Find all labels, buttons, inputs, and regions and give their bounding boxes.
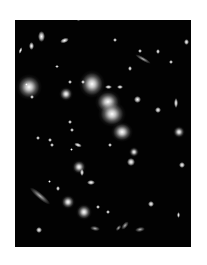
bright-galaxy (129, 147, 139, 157)
faint-galaxy (50, 143, 54, 147)
faint-galaxy (74, 142, 83, 148)
faint-galaxy (113, 38, 117, 42)
faint-galaxy (184, 39, 189, 45)
faint-galaxy (87, 180, 95, 185)
faint-galaxy (80, 169, 84, 176)
faint-galaxy (127, 158, 135, 166)
bright-galaxy (59, 87, 73, 101)
faint-galaxy (174, 98, 178, 108)
faint-galaxy (148, 201, 154, 207)
faint-galaxy (48, 180, 51, 183)
bright-galaxy (173, 126, 185, 138)
lensed-arc (90, 225, 101, 232)
faint-galaxy (17, 46, 22, 54)
faint-galaxy (179, 162, 185, 168)
faint-galaxy (96, 205, 100, 209)
faint-galaxy (106, 210, 110, 214)
lensed-arc (114, 224, 122, 232)
faint-galaxy (30, 95, 34, 99)
lensed-arc (28, 185, 52, 206)
faint-galaxy (70, 148, 73, 151)
faint-galaxy (68, 80, 72, 84)
faint-galaxy (56, 186, 60, 191)
faint-galaxy (169, 60, 173, 64)
faint-galaxy (36, 136, 40, 140)
bright-galaxy (16, 74, 42, 100)
lensed-arc (135, 226, 146, 233)
faint-galaxy (155, 107, 161, 113)
faint-galaxy (177, 212, 180, 218)
faint-galaxy (156, 49, 160, 54)
bright-galaxy (76, 204, 92, 220)
faint-galaxy (105, 85, 112, 89)
bright-galaxy (61, 195, 75, 209)
faint-galaxy (29, 42, 34, 50)
galaxy-cluster-photo (15, 20, 191, 247)
faint-galaxy (117, 85, 123, 89)
faint-galaxy (81, 80, 85, 84)
faint-galaxy (25, 83, 28, 86)
bright-galaxy (111, 122, 133, 142)
faint-galaxy (36, 227, 42, 233)
faint-galaxy (108, 143, 112, 147)
faint-galaxy (55, 65, 59, 68)
lensed-arc (134, 53, 152, 65)
faint-galaxy (138, 49, 142, 53)
faint-galaxy (134, 96, 141, 103)
faint-galaxy (59, 36, 69, 44)
faint-galaxy (38, 31, 45, 42)
faint-galaxy (128, 66, 132, 71)
faint-galaxy (68, 120, 72, 124)
faint-galaxy (76, 20, 81, 21)
faint-galaxy (70, 128, 74, 132)
faint-galaxy (48, 138, 52, 142)
